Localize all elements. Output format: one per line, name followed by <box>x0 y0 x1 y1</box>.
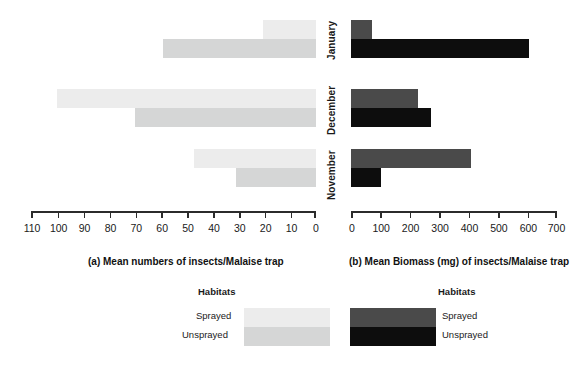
legend-swatch-unsprayed <box>244 327 330 346</box>
axis-cap-right <box>555 211 557 218</box>
axis-tick <box>84 211 86 218</box>
axis-baseline <box>31 211 316 213</box>
axis-label-december: December <box>326 86 337 135</box>
bar-december-unsprayed <box>135 108 316 127</box>
legend-title: Habitats <box>198 286 235 297</box>
axis-tick <box>498 211 500 218</box>
axis-cap-right <box>314 211 316 218</box>
axis-tick <box>528 211 530 218</box>
panel-a-mean-numbers: January December November 110 100 90 80 … <box>0 0 340 280</box>
panel-b-mean-biomass: 0 100 200 300 400 500 600 700 <box>340 0 583 280</box>
axis-tick <box>187 211 189 218</box>
bar-november-unsprayed <box>236 168 316 187</box>
axis-tick <box>265 211 267 218</box>
bar-january-sprayed <box>263 20 316 39</box>
bar-december-sprayed <box>351 89 418 108</box>
bar-december-sprayed <box>57 89 316 108</box>
legend-label-sprayed: Sprayed <box>442 310 477 321</box>
axis-cap-left <box>351 211 353 218</box>
bar-january-sprayed <box>351 20 372 39</box>
legend-swatch-unsprayed <box>350 327 436 346</box>
axis-tick <box>291 211 293 218</box>
bar-january-unsprayed <box>163 39 316 58</box>
axis-tick <box>439 211 441 218</box>
axis-tick <box>136 211 138 218</box>
axis-label-january: January <box>326 21 337 60</box>
axis-tick <box>239 211 241 218</box>
axis-tick <box>58 211 60 218</box>
axis-tick-label: 0 <box>298 222 334 234</box>
bar-december-unsprayed <box>351 108 431 127</box>
axis-cap-left <box>31 211 33 218</box>
legend-panel-b: Habitats Sprayed Unsprayed <box>348 286 548 356</box>
panel-b-caption: (b) Mean Biomass (mg) of insects/Malaise… <box>349 256 569 267</box>
legend-panel-a: Habitats Sprayed Unsprayed <box>150 286 330 356</box>
axis-tick <box>380 211 382 218</box>
axis-tick <box>410 211 412 218</box>
panel-a-caption: (a) Mean numbers of insects/Malaise trap <box>88 256 284 267</box>
legend-label-sprayed: Sprayed <box>196 310 231 321</box>
legend-label-unsprayed: Unsprayed <box>182 329 228 340</box>
axis-tick <box>161 211 163 218</box>
bar-november-sprayed <box>351 149 471 168</box>
axis-tick <box>110 211 112 218</box>
axis-label-november: November <box>326 150 337 200</box>
legend-label-unsprayed: Unsprayed <box>442 329 488 340</box>
axis-tick-label: 700 <box>539 222 575 234</box>
legend-swatch-sprayed <box>350 308 436 327</box>
axis-tick <box>469 211 471 218</box>
axis-tick <box>213 211 215 218</box>
figure-container: January December November 110 100 90 80 … <box>0 0 583 372</box>
legend-swatch-sprayed <box>244 308 330 327</box>
bar-november-unsprayed <box>351 168 381 187</box>
legend-title: Habitats <box>438 286 475 297</box>
bar-november-sprayed <box>194 149 316 168</box>
bar-january-unsprayed <box>351 39 529 58</box>
